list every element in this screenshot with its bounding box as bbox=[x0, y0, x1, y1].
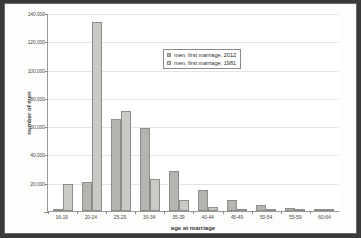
x-axis-tick-label: 55-59 bbox=[281, 214, 310, 220]
chart-frame: number of men -20,00040,00060,00080,0001… bbox=[4, 3, 357, 234]
x-axis-title: age at marriage bbox=[47, 225, 339, 231]
bar-group bbox=[135, 14, 164, 211]
legend-item-2012: men, first marriage, 2012 bbox=[167, 52, 236, 58]
y-axis-tick-label: 20,000 bbox=[30, 181, 45, 187]
y-axis-tick-label: 120,000 bbox=[28, 39, 45, 45]
bar bbox=[198, 190, 208, 211]
x-axis-tick-label: 35-39 bbox=[164, 214, 193, 220]
legend-swatch-2012 bbox=[167, 53, 171, 57]
bar bbox=[256, 205, 266, 211]
bar-group bbox=[48, 14, 77, 211]
plot-area: -20,00040,00060,00080,000100,000120,0001… bbox=[47, 14, 339, 212]
bar bbox=[150, 179, 160, 211]
chart-legend: men, first marriage, 2012 men, first mar… bbox=[163, 49, 241, 69]
bar-group bbox=[223, 14, 252, 211]
bar bbox=[285, 208, 295, 211]
bar-group bbox=[193, 14, 222, 211]
bar bbox=[324, 209, 334, 211]
x-axis-tick-label: 45-49 bbox=[222, 214, 251, 220]
x-axis-tick-label: 50-54 bbox=[251, 214, 280, 220]
legend-item-1981: men, first marriage, 1981 bbox=[167, 60, 236, 66]
bar bbox=[266, 209, 276, 211]
bar bbox=[208, 207, 218, 211]
y-axis-tick-label: 140,000 bbox=[28, 11, 45, 17]
x-axis-tick-label: 60-64 bbox=[310, 214, 339, 220]
bar bbox=[314, 209, 324, 211]
y-axis-tick-label: 80,000 bbox=[30, 96, 45, 102]
x-axis-tick-label: 16-19 bbox=[47, 214, 76, 220]
bar-groups bbox=[48, 14, 339, 211]
x-axis-tick-label: 30-34 bbox=[135, 214, 164, 220]
y-axis-title-wrapper: number of men bbox=[13, 14, 27, 212]
legend-label-2012: men, first marriage, 2012 bbox=[174, 52, 236, 58]
bar bbox=[179, 200, 189, 211]
bar bbox=[121, 111, 131, 211]
bar bbox=[140, 128, 150, 211]
bar-group bbox=[77, 14, 106, 211]
bar bbox=[295, 209, 305, 211]
x-axis-tick-label: 25-29 bbox=[105, 214, 134, 220]
y-axis-tick-label: 100,000 bbox=[28, 68, 45, 74]
bar bbox=[169, 171, 179, 211]
bar-group bbox=[252, 14, 281, 211]
x-axis-tick-label: 40-44 bbox=[193, 214, 222, 220]
y-axis-tick-label: 40,000 bbox=[30, 152, 45, 158]
bar bbox=[92, 22, 102, 212]
bar bbox=[63, 184, 73, 211]
bar-group bbox=[281, 14, 310, 211]
bar bbox=[237, 209, 247, 211]
bar bbox=[53, 209, 63, 211]
bar bbox=[82, 182, 92, 211]
bar bbox=[111, 119, 121, 211]
legend-label-1981: men, first marriage, 1981 bbox=[174, 60, 236, 66]
bar-group bbox=[106, 14, 135, 211]
x-axis-tick-label: 20-24 bbox=[76, 214, 105, 220]
bar-group bbox=[310, 14, 339, 211]
legend-swatch-1981 bbox=[167, 61, 171, 65]
x-axis-tick-labels: 16-1920-2425-2930-3435-3940-4445-4950-54… bbox=[47, 214, 339, 220]
bar-group bbox=[164, 14, 193, 211]
y-axis-tick-label: 60,000 bbox=[30, 124, 45, 130]
bar bbox=[227, 200, 237, 211]
